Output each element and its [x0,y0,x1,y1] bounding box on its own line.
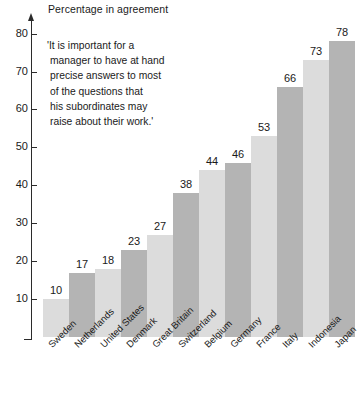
quote-line: precise answers to most [47,68,195,83]
quote-line: his subordinates may [47,99,195,114]
bar-value-label: 78 [323,26,360,38]
y-axis-tick-label: 50 [0,140,28,152]
y-axis-tick [32,34,37,35]
y-axis-tick-label: 30 [0,216,28,228]
y-axis-tick [32,299,37,300]
bar [251,136,277,337]
y-axis-tick-label: 70 [0,65,28,77]
y-axis-tick [32,72,37,73]
quote-annotation: 'It is important for amanager to have at… [47,38,195,129]
y-axis-tick [32,147,37,148]
y-axis-tick [32,185,37,186]
y-axis-foot [24,339,32,340]
bar [277,87,303,337]
bar [329,41,355,337]
quote-line: 'It is important for a [47,38,195,53]
y-axis-tick [32,223,37,224]
y-axis-tick [32,261,37,262]
y-axis-line [31,20,32,340]
y-axis-tick-label: 80 [0,27,28,39]
bar [303,60,329,337]
quote-line: raise about their work.' [47,114,195,129]
quote-line: of the questions that [47,84,195,99]
quote-line: manager to have at hand [47,53,195,68]
bar [225,163,251,337]
chart-title: Percentage in agreement [48,3,168,15]
y-axis-tick-label: 60 [0,102,28,114]
y-axis-tick-label: 40 [0,178,28,190]
y-axis-tick [32,109,37,110]
y-axis-tick-label: 20 [0,254,28,266]
y-axis-tick-label: 10 [0,292,28,304]
bar-chart: Percentage in agreement 1020304050607080… [0,0,360,408]
